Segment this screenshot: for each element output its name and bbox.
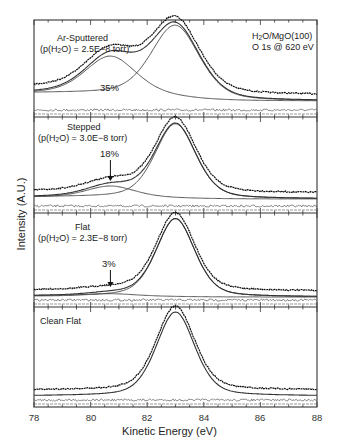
panel2-condition: (p(H2O) = 3.0E−8 torr)	[38, 133, 127, 145]
y-axis-label: Intensity (A.U.)	[15, 159, 27, 269]
x-tick-82: 82	[142, 412, 153, 423]
x-tick-84: 84	[199, 412, 210, 423]
panel1-condition: (p(H2O) = 2.5E−8 torr)	[40, 44, 129, 56]
x-tick-78: 78	[29, 412, 40, 423]
panel1-title: Ar-Sputtered	[57, 33, 108, 43]
x-tick-86: 86	[255, 412, 266, 423]
x-tick-80: 80	[86, 412, 97, 423]
annotation-photon-energy: O 1s @ 620 eV	[252, 42, 314, 52]
panel2-percent: 18%	[100, 148, 119, 159]
panel2-title: Stepped	[67, 122, 101, 132]
panel4-title: Clean Flat	[40, 316, 81, 326]
x-tick-88: 88	[312, 412, 323, 423]
panel1-percent: 35%	[100, 82, 119, 93]
panel3-percent: 3%	[102, 258, 116, 269]
xps-spectra-plot	[0, 0, 339, 448]
x-axis-label: Kinetic Energy (eV)	[0, 425, 339, 437]
panel3-condition: (p(H2O) = 2.3E−8 torr)	[38, 233, 127, 245]
panel3-title: Flat	[75, 222, 90, 232]
